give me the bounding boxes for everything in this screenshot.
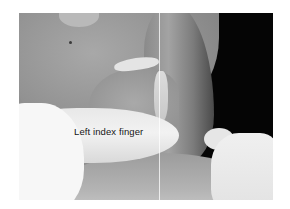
- clinical-photo: [19, 13, 273, 200]
- image-seam-line: [159, 13, 160, 200]
- right-glove: [211, 133, 273, 200]
- side-teeth: [154, 71, 168, 121]
- finger-annotation-label: Left index finger: [74, 126, 143, 137]
- skin-mark: [69, 41, 72, 44]
